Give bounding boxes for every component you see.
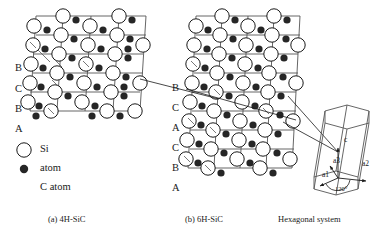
caption-panel-b: (b) 6H-SiC (185, 215, 223, 224)
legend-symbols (0, 0, 383, 237)
si-open-circle-icon (17, 143, 31, 157)
angle-label-120: 120° (335, 186, 347, 193)
axis-label-a3: a3 (333, 157, 340, 165)
axis-label-c: c (344, 136, 347, 144)
sic-crystal-structure-figure: B C B A B C A C B A Si atom C atom c a1 … (0, 0, 383, 237)
caption-panel-c: Hexagonal system (278, 215, 341, 224)
axis-label-a1: a1 (322, 171, 329, 179)
caption-panel-a: (a) 4H-SiC (48, 215, 86, 224)
legend-label-si: Si (40, 144, 49, 155)
legend-label-c-atom: C atom (40, 182, 71, 193)
axis-label-a2: a2 (362, 160, 369, 168)
legend-label-atom: atom (40, 163, 61, 174)
c-filled-circle-icon (20, 165, 28, 173)
